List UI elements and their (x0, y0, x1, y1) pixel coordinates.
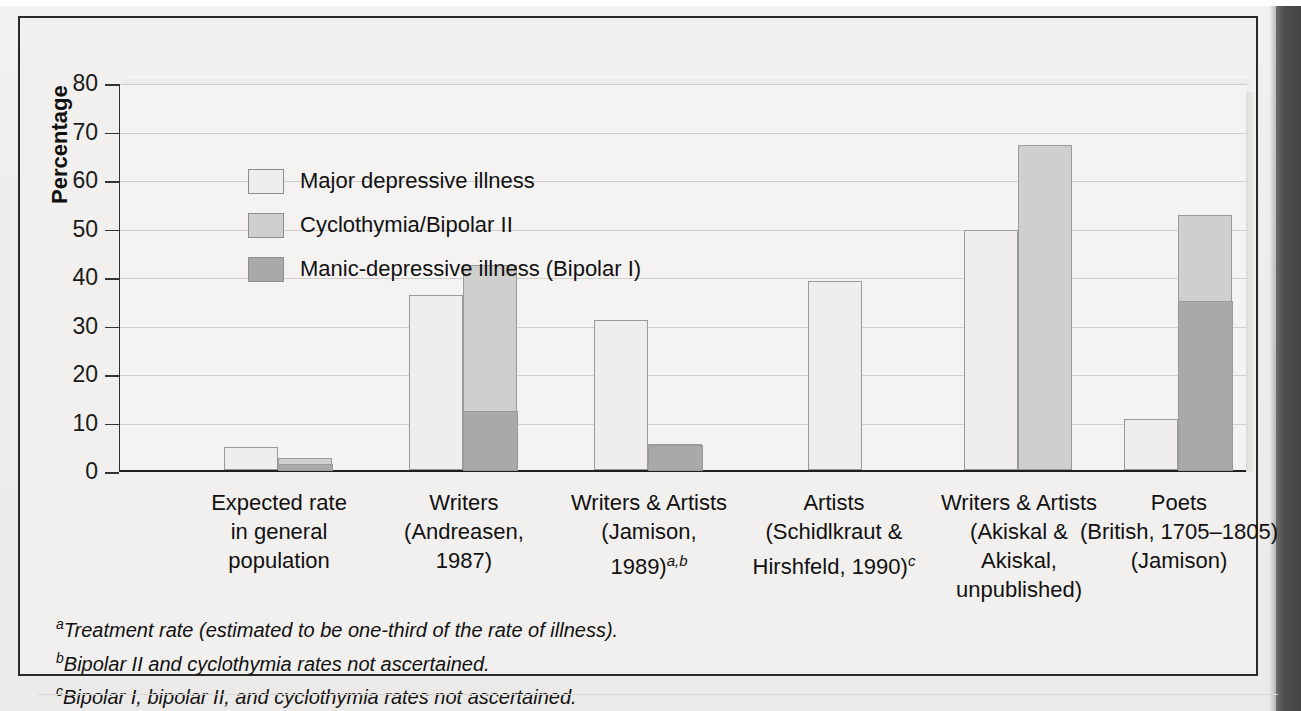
footnote-marker: c (56, 683, 63, 699)
bar-major-depressive (224, 447, 278, 470)
plot-3d-right-face (1246, 92, 1254, 472)
figure-box: Percentage 80706050403020100 Major depre… (18, 16, 1258, 676)
bar-major-depressive (808, 281, 862, 470)
x-axis-label-line: (Jamison) (1064, 546, 1294, 575)
y-axis-tick-label: 50 (72, 216, 98, 243)
bar-stacked-cyclothymia-manic (463, 265, 517, 470)
scanned-page: Percentage 80706050403020100 Major depre… (0, 0, 1301, 711)
legend-label-major-depressive: Major depressive illness (300, 168, 535, 194)
bar-stacked-cyclothymia-manic (648, 444, 702, 470)
bar-segment-manic-depressive-bipolar1 (278, 464, 333, 470)
footnote: bBipolar II and cyclothymia rates not as… (56, 644, 1236, 678)
legend-swatch-major-depressive (248, 169, 284, 194)
footnote-marker: a (56, 616, 64, 632)
y-axis-tick-label: 40 (72, 264, 98, 291)
bar-stacked-cyclothymia-manic (1178, 215, 1232, 470)
y-axis-tick (105, 424, 119, 426)
book-edge-shadow (1269, 6, 1276, 711)
y-axis-tick (105, 84, 119, 86)
footnotes-block: aTreatment rate (estimated to be one-thi… (56, 610, 1236, 711)
bar-major-depressive (1124, 419, 1178, 470)
plot-3d-top-face (123, 76, 1250, 84)
x-axis-label-footnote-marker: a,b (667, 552, 688, 569)
y-axis-tick-label: 30 (72, 313, 98, 340)
x-axis-category-labels: Expected ratein generalpopulationWriters… (119, 488, 1254, 608)
y-axis-tick (105, 181, 119, 183)
legend-item-manic-depressive-bipolar1: Manic-depressive illness (Bipolar I) (248, 256, 641, 282)
y-axis-title: Percentage (47, 4, 73, 204)
y-axis-tick-label: 70 (72, 119, 98, 146)
y-axis-tick-label: 20 (72, 361, 98, 388)
gridline (120, 424, 1247, 425)
book-edge (1276, 6, 1301, 711)
y-axis-tick (105, 327, 119, 329)
gridline (120, 84, 1247, 85)
bar-major-depressive (964, 230, 1018, 470)
y-axis-tick (105, 133, 119, 135)
y-axis-tick (105, 375, 119, 377)
y-axis-tick-label: 10 (72, 410, 98, 437)
footnote-text: Bipolar II and cyclothymia rates not asc… (64, 652, 490, 674)
x-axis-label-line: (British, 1705–1805) (1064, 517, 1294, 546)
y-axis-tick-label: 0 (85, 458, 98, 485)
bar-major-depressive (594, 320, 648, 470)
legend-item-major-depressive: Major depressive illness (248, 168, 641, 194)
gridline (120, 375, 1247, 376)
plot-frame: Percentage 80706050403020100 Major depre… (119, 84, 1254, 480)
footnote: aTreatment rate (estimated to be one-thi… (56, 610, 1236, 644)
legend-swatch-manic-depressive-bipolar1 (248, 257, 284, 282)
footnote-divider (38, 694, 1278, 695)
bar-segment-manic-depressive-bipolar1 (648, 445, 703, 471)
y-axis-tick (105, 278, 119, 280)
y-axis-tick-label: 60 (72, 167, 98, 194)
x-axis-label-line: Poets (1064, 488, 1294, 517)
bar-stacked-cyclothymia-manic (278, 458, 332, 470)
legend-label-cyclothymia-bipolar2: Cyclothymia/Bipolar II (300, 212, 513, 238)
footnote-marker: b (56, 650, 64, 666)
bar-segment-manic-depressive-bipolar1 (463, 411, 518, 471)
y-axis-tick-label: 80 (72, 70, 98, 97)
gridline (120, 327, 1247, 328)
legend-swatch-cyclothymia-bipolar2 (248, 213, 284, 238)
x-axis-label: Poets(British, 1705–1805)(Jamison) (1064, 488, 1294, 575)
y-axis-tick (105, 230, 119, 232)
gridline (120, 133, 1247, 134)
footnote-text: Bipolar I, bipolar II, and cyclothymia r… (63, 686, 577, 708)
legend-item-cyclothymia-bipolar2: Cyclothymia/Bipolar II (248, 212, 641, 238)
chart-legend: Major depressive illness Cyclothymia/Bip… (248, 168, 641, 282)
legend-label-manic-depressive-bipolar1: Manic-depressive illness (Bipolar I) (300, 256, 641, 282)
bar-stacked-cyclothymia-manic (1018, 145, 1072, 470)
bar-segment-manic-depressive-bipolar1 (1178, 301, 1233, 471)
bar-major-depressive (409, 295, 463, 470)
x-axis-label-line: unpublished) (904, 575, 1134, 604)
y-axis-tick (105, 472, 119, 474)
footnote-text: Treatment rate (estimated to be one-thir… (64, 619, 618, 641)
